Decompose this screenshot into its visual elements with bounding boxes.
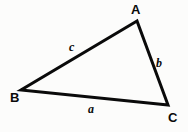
vertex-label-b: B	[10, 91, 19, 104]
vertex-label-a: A	[131, 3, 140, 16]
side-label-b: b	[156, 57, 162, 69]
side-label-a: a	[88, 103, 94, 115]
triangle-diagram: A B C a b c	[0, 0, 188, 132]
triangle-shape	[21, 21, 168, 105]
side-label-c: c	[69, 41, 74, 53]
vertex-label-c: C	[168, 111, 177, 124]
